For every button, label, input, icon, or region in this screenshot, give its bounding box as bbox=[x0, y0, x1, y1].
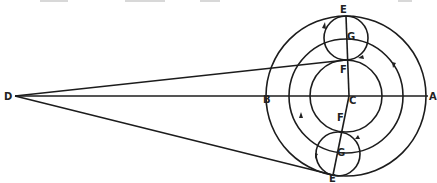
label-F-bottom: F bbox=[337, 112, 344, 123]
label-A: A bbox=[429, 91, 437, 102]
cropped-text-remnant bbox=[40, 0, 412, 2]
line-DF bbox=[15, 60, 346, 96]
label-G-top: G bbox=[347, 31, 355, 42]
line-C-to-E-bottom bbox=[333, 96, 349, 175]
line-DE bbox=[15, 96, 333, 175]
line-E-top-to-C bbox=[346, 16, 349, 96]
label-E-bottom: E bbox=[329, 173, 336, 183]
label-D: D bbox=[4, 91, 12, 102]
label-B: B bbox=[263, 94, 271, 105]
geometry-diagram: E G F A B C D F G E bbox=[0, 0, 437, 183]
label-C: C bbox=[349, 95, 356, 106]
label-G-bottom: G bbox=[337, 147, 345, 158]
label-F-top: F bbox=[340, 64, 347, 75]
label-E-top: E bbox=[340, 4, 347, 15]
